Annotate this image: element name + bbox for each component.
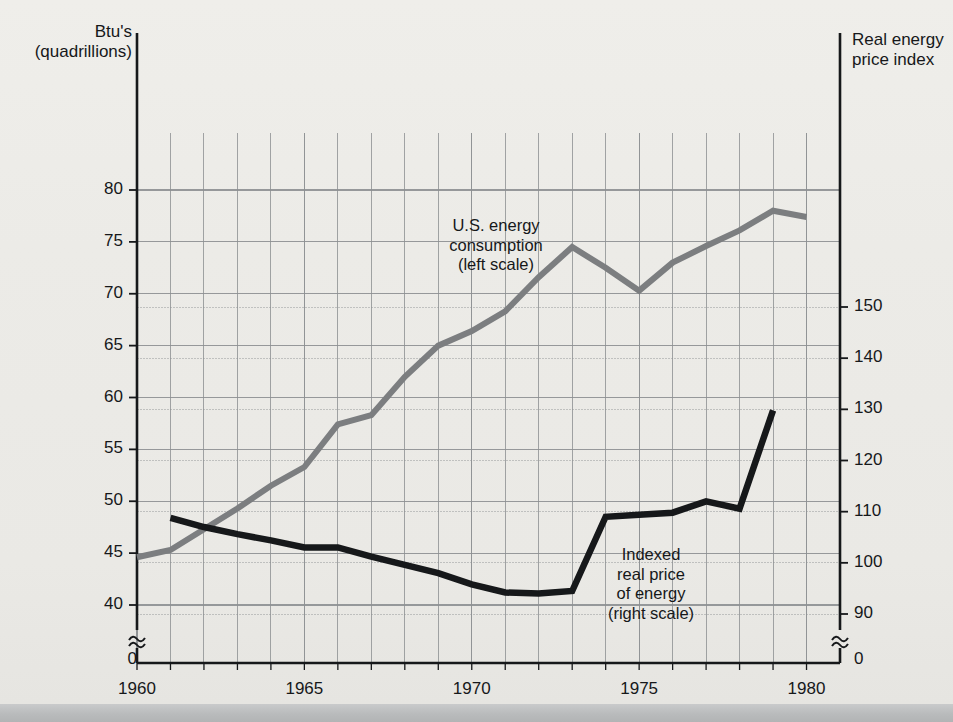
x-axis-tick-1980: 1980 (775, 679, 839, 699)
y-axis-right-tick-120: 120 (854, 450, 898, 470)
y-axis-right-tick-100: 100 (854, 552, 898, 572)
y-axis-right-tick-130: 130 (854, 398, 898, 418)
y-axis-left-tick-50: 50 (79, 490, 123, 510)
y-axis-left-tick-45: 45 (79, 542, 123, 562)
y-axis-right-tick-90: 90 (854, 603, 898, 623)
x-axis-tick-1960: 1960 (105, 679, 169, 699)
x-axis-tick-1965: 1965 (272, 679, 336, 699)
axis-lines (137, 33, 840, 663)
chart-canvas (0, 0, 953, 722)
y-axis-left-tick-40: 40 (79, 594, 123, 614)
chart-page: Btu's (quadrillions) Real energy price i… (0, 0, 953, 722)
y-axis-left-tick-55: 55 (79, 438, 123, 458)
y-axis-left-tick-65: 65 (79, 335, 123, 355)
y-axis-left-tick-60: 60 (79, 387, 123, 407)
y-axis-right-zero: 0 (854, 649, 898, 669)
y-axis-left-tick-70: 70 (79, 283, 123, 303)
y-axis-left-zero: 0 (93, 649, 137, 669)
grid-lines (137, 133, 840, 663)
y-axis-right-tick-110: 110 (854, 501, 898, 521)
annotation-consumption: U.S. energy consumption (left scale) (396, 216, 596, 275)
y-axis-right-tick-140: 140 (854, 347, 898, 367)
left-axis-title: Btu's (quadrillions) (14, 22, 132, 62)
right-axis-title: Real energy price index (852, 30, 950, 70)
y-axis-left-tick-75: 75 (79, 231, 123, 251)
axis-break-marks (129, 637, 848, 648)
y-axis-right-tick-150: 150 (854, 296, 898, 316)
x-axis-tick-1970: 1970 (440, 679, 504, 699)
x-axis-tick-1975: 1975 (607, 679, 671, 699)
annotation-price: Indexed real price of energy (right scal… (575, 545, 727, 623)
dual-axis-line-chart (0, 0, 953, 722)
y-axis-left-tick-80: 80 (79, 179, 123, 199)
